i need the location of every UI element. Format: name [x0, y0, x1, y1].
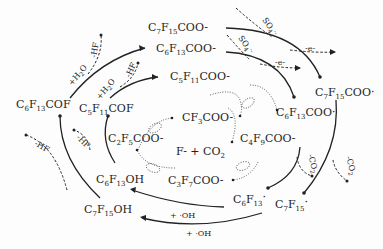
species-c7f15oh: C7F15OH — [84, 203, 132, 218]
reagent-so4-inner: SO4·- — [236, 33, 256, 56]
reaction-cycle-diagram: C7F15COO- C6F13COO- C5F11COO- C7F15COO· … — [0, 0, 383, 249]
species-c7f15coo-top: C7F15COO- — [148, 21, 208, 36]
reagent-co2-outer: -CO2 — [343, 155, 358, 176]
reagent-e-outer: -e- — [305, 44, 315, 53]
species-c4f9coo: C4F9COO- — [240, 132, 296, 147]
arrow-outer-oh — [142, 213, 262, 224]
species-c6f13-radical: C6F13· — [233, 191, 266, 208]
species-c7f15-radical: C7F15· — [275, 196, 308, 213]
species-c6f13coo-top: C6F13COO- — [156, 42, 216, 57]
species-c7f15coo-radical: C7F15COO· — [315, 86, 374, 101]
reagent-h2o-outer: +H2O — [67, 63, 90, 88]
reagent-hf-left-outer: -HF — [33, 139, 51, 155]
reagent-h2o-inner: +H2O — [95, 77, 118, 102]
arrow-inner-oh — [132, 190, 224, 207]
species-c6f13coo-radical: C6F13COO· — [276, 106, 335, 121]
reagent-oh-inner: + ·OH — [170, 211, 195, 220]
species-c2f5coo: C2F5COO- — [108, 132, 164, 147]
species-c5f11cof: C5F11COF — [79, 102, 134, 117]
reagent-oh-outer: + ·OH — [186, 229, 211, 238]
species-c6f13oh: C6F13OH — [96, 173, 144, 188]
species-c6f13cof: C6F13COF — [16, 98, 71, 113]
species-center-products: F- + CO2 — [176, 145, 225, 160]
reagent-hf-top-outer: -HF — [89, 41, 101, 58]
arrow-inner-cof-to-coo — [110, 77, 158, 98]
species-c5f11coo: C5F11COO- — [170, 70, 230, 85]
species-cf3coo: CF3COO- — [182, 111, 233, 126]
reagent-co2-inner: -CO2 — [305, 153, 320, 174]
arrow-inner-decarbox — [268, 147, 300, 188]
species-c3f7coo: C3F7COO- — [168, 174, 224, 189]
reagent-e-inner: -e- — [275, 58, 285, 67]
